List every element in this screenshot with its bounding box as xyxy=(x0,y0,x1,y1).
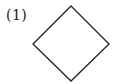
diamond-outline xyxy=(33,6,109,81)
diamond-shape xyxy=(0,0,119,84)
